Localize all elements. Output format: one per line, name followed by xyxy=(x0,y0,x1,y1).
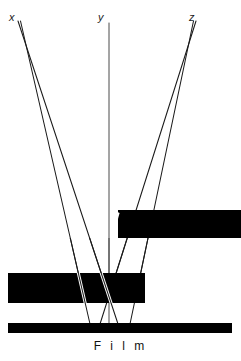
film-strip xyxy=(8,323,232,333)
film-caption: F i l m xyxy=(0,340,241,352)
upper-right-absorber-bar xyxy=(118,210,241,238)
figure-canvas: x y z F i l m xyxy=(0,0,241,361)
lower-left-absorber-bar xyxy=(8,273,145,303)
axis-label-y: y xyxy=(98,12,104,23)
axis-label-z: z xyxy=(189,12,195,23)
ray-diagram-svg xyxy=(0,0,241,361)
axis-label-x: x xyxy=(9,12,15,23)
